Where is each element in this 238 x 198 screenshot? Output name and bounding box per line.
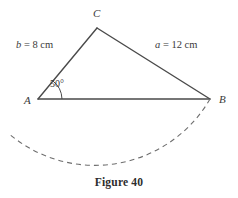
side-b-value: = 8 cm xyxy=(21,39,53,50)
vertex-label-b: B xyxy=(219,94,226,105)
side-label-b: b = 8 cm xyxy=(16,40,53,51)
dashed-swing-arc xyxy=(8,99,210,165)
angle-label-50deg: 50° xyxy=(50,79,64,89)
vertex-label-a: A xyxy=(24,95,31,106)
side-a-value: = 12 cm xyxy=(160,39,197,50)
side-label-a: a = 12 cm xyxy=(155,40,197,51)
triangle-diagram-svg xyxy=(0,0,238,198)
figure-caption: Figure 40 xyxy=(0,176,238,188)
vertex-label-c: C xyxy=(93,8,100,19)
figure-40-container: C A B b = 8 cm a = 12 cm 50° Figure 40 xyxy=(0,0,238,198)
